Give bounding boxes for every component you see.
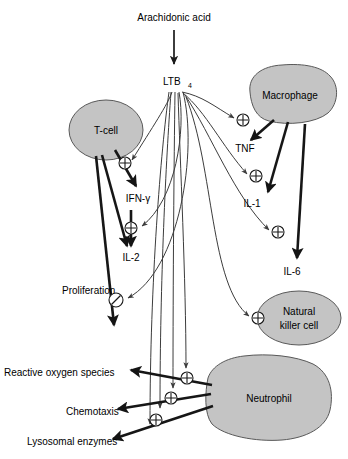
natural-killer-cell-label-line2: killer cell — [280, 320, 318, 331]
edge-neutrophil-to-chemotaxis — [118, 394, 211, 409]
edge-ltb4-to-neutrophil-line — [178, 93, 186, 368]
plus-in-circle-icon-ros — [181, 372, 193, 384]
plus-in-circle-icon-chemotaxis — [165, 392, 177, 404]
proliferation-label: Proliferation — [62, 285, 115, 296]
reactive-oxygen-species-label: Reactive oxygen species — [4, 367, 115, 378]
neutrophil-label: Neutrophil — [246, 393, 292, 404]
plus-in-circle-icon-lysosomal — [150, 414, 162, 426]
plus-in-circle-icon-il1 — [272, 226, 284, 238]
edge-ltb4-to-nk-cell — [186, 97, 249, 316]
edge-ltb4-to-ros-line — [173, 92, 175, 388]
edge-ltb4-to-il1 — [185, 95, 269, 230]
natural-killer-cell-label-line1: Natural — [283, 306, 315, 317]
chemotaxis-label: Chemotaxis — [66, 406, 119, 417]
plus-in-circle-icon-tnf — [250, 170, 262, 182]
edge-macrophage-to-il6 — [297, 124, 305, 258]
arachidonic-acid-label: Arachidonic acid — [137, 12, 210, 23]
edge-neutrophil-to-ros — [131, 370, 212, 385]
plus-in-circle-icon-tcell — [119, 157, 131, 169]
il-1-label: IL-1 — [243, 198, 261, 209]
ltb4-label: LTB — [163, 76, 181, 87]
pathway-diagram-canvas: Arachidonic acid LTB 4 T-cell IFN-γ IL-2… — [0, 0, 348, 459]
edge-neutrophil-to-lysosomal-enzymes — [113, 406, 213, 439]
edge-macrophage-to-il1 — [268, 122, 288, 192]
edge-ltb4-to-macrophage — [182, 92, 234, 118]
tnf-label: TNF — [235, 143, 254, 154]
plus-in-circle-icon-il2 — [125, 222, 137, 234]
macrophage-label: Macrophage — [262, 90, 318, 101]
il-2-label: IL-2 — [122, 252, 140, 263]
edge-ltb4-to-tnf — [183, 93, 247, 174]
plus-in-circle-icon-macrophage — [237, 114, 249, 126]
edge-ltb4-to-chemotaxis-line — [160, 92, 171, 408]
plus-in-circle-icon-nk-cell — [252, 312, 264, 324]
il-6-label: IL-6 — [283, 266, 301, 277]
natural-killer-cell-shape — [257, 291, 341, 345]
edge-macrophage-to-tnf — [251, 120, 274, 140]
ifn-gamma-label: IFN-γ — [126, 193, 150, 204]
t-cell-label: T-cell — [94, 125, 118, 136]
lysosomal-enzymes-label: Lysosomal enzymes — [27, 436, 117, 447]
slash-in-circle-icon-proliferation — [109, 293, 123, 307]
pathway-diagram: Arachidonic acid LTB 4 T-cell IFN-γ IL-2… — [0, 0, 348, 459]
ltb4-subscript: 4 — [188, 82, 192, 89]
